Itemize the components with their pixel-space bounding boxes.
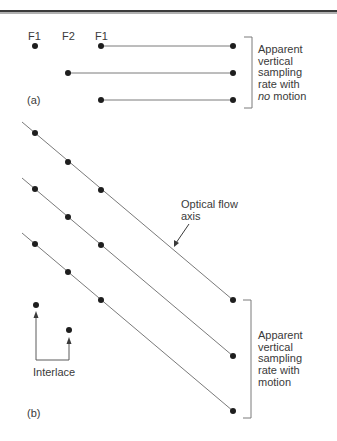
optical-flow-label-line2: axis (181, 211, 238, 223)
part-a-bracket (244, 37, 252, 108)
part-b-caption: Apparent vertical sampling rate with mot… (258, 330, 303, 389)
part-a-label: (a) (27, 94, 40, 106)
optical-flow-arrow (174, 224, 189, 247)
part-b-caption-line: motion (258, 377, 303, 389)
part-a-caption: Apparent vertical sampling rate with no … (258, 44, 306, 103)
field-label-f2: F2 (62, 30, 75, 42)
part-b-caption-line: Apparent (258, 330, 303, 342)
optical-flow-label-line1: Optical flow (181, 199, 238, 211)
part-b-label: (b) (27, 407, 40, 419)
part-a-lines (68, 46, 233, 100)
part-a-caption-line: Apparent (258, 44, 306, 56)
part-a-caption-rest: motion (270, 90, 306, 102)
field-label-f1-first: F1 (28, 30, 41, 42)
field-label-f1-second: F1 (95, 30, 108, 42)
part-a-caption-emphasis: no (258, 90, 270, 102)
interlace-label: Interlace (33, 366, 75, 378)
part-a-caption-line-last: no motion (258, 91, 306, 103)
interlace-bracket (34, 311, 72, 360)
part-b-bracket (243, 300, 251, 418)
optical-flow-label: Optical flow axis (181, 199, 238, 222)
